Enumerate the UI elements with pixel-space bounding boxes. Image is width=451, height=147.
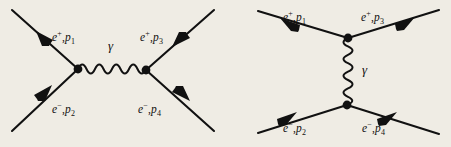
- vertex-top: [344, 34, 353, 43]
- label-positron-p1: e+,p1: [283, 9, 306, 26]
- label-electron-p2: e−,p2: [52, 101, 75, 118]
- arrowhead-top-right: [395, 17, 415, 31]
- vertex-left: [74, 65, 83, 74]
- vertex-right: [142, 66, 151, 75]
- feynman-diagram-figure: e+,p1 e+,p3 e−,p2 e−,p4 γ: [0, 0, 451, 147]
- label-electron-p4: e−,p4: [362, 120, 385, 137]
- label-electron-p2: e−,p2: [283, 120, 306, 137]
- vertex-bottom: [343, 101, 352, 110]
- leg-line-bottom-right: [347, 105, 439, 134]
- label-positron-p1: e+,p1: [52, 29, 75, 46]
- photon-propagator-wave: [344, 38, 353, 105]
- label-electron-p4: e−,p4: [138, 101, 161, 118]
- label-photon-gamma: γ: [362, 62, 367, 78]
- label-photon-gamma: γ: [108, 38, 113, 54]
- t-channel-diagram: e+,p1 e+,p3 e−,p2 e−,p4 γ: [225, 0, 451, 147]
- label-positron-p3: e+,p3: [361, 9, 384, 26]
- t-channel-svg: [225, 0, 451, 147]
- s-channel-diagram: e+,p1 e+,p3 e−,p2 e−,p4 γ: [0, 0, 226, 147]
- arrowhead-bottom-left: [34, 85, 52, 101]
- label-positron-p3: e+,p3: [140, 29, 163, 46]
- s-channel-svg: [0, 0, 226, 147]
- photon-propagator-wave: [78, 65, 146, 74]
- arrowhead-bottom-right: [172, 86, 190, 101]
